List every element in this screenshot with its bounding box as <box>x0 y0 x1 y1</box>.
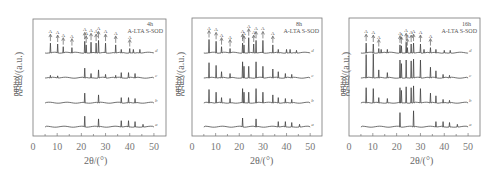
svg-text:A: A <box>61 33 65 38</box>
svg-text:A: A <box>364 29 368 34</box>
legend-text: A-LTA S-SOD <box>442 28 477 35</box>
x-axis-label: 2θ/(°) <box>84 155 107 166</box>
xrd-curve-c <box>204 62 310 78</box>
curve-label-a: a <box>155 122 158 127</box>
svg-text:A: A <box>254 26 258 31</box>
curve-label-d: d <box>311 48 314 53</box>
svg-text:A: A <box>419 30 423 35</box>
xrd-panel-8h: AAAAAAAAAAA 强度/(a.u.) 2θ/(°) 8h A-LTA S-… <box>170 0 335 174</box>
svg-text:A: A <box>377 35 381 40</box>
svg-text:A: A <box>89 28 93 33</box>
curve-label-b: b <box>155 98 158 103</box>
svg-text:A: A <box>114 31 118 36</box>
svg-text:A: A <box>104 29 108 34</box>
svg-text:A: A <box>97 26 101 31</box>
x-tick-label: 30 <box>258 141 268 152</box>
x-tick-label: 30 <box>415 141 425 152</box>
x-tick-label: 50 <box>305 141 315 152</box>
xrd-curve-b <box>361 86 468 103</box>
x-tick-label: 40 <box>125 141 135 152</box>
x-axis-label: 2θ/(°) <box>410 155 433 166</box>
x-tick-label: 0 <box>31 141 36 152</box>
curve-label-c: c <box>155 73 157 78</box>
svg-text:A: A <box>84 31 88 36</box>
svg-text:A: A <box>207 26 211 31</box>
panel-title: 4h <box>147 21 153 28</box>
curve-label-b: b <box>469 98 472 103</box>
curve-label-a: a <box>469 122 472 127</box>
x-tick-label: 20 <box>392 141 402 152</box>
x-tick-label: 50 <box>149 141 159 152</box>
xrd-curve-c <box>361 54 468 78</box>
svg-text:A: A <box>400 32 404 37</box>
xrd-curve-d <box>204 38 310 53</box>
x-tick-label: 10 <box>52 141 62 152</box>
svg-text:A: A <box>228 35 232 40</box>
x-tick-label: 10 <box>368 141 378 152</box>
x-tick-label: 10 <box>211 141 221 152</box>
xrd-panel-16h: AAAAAASAAAA 强度/(a.u.) 2θ/(°) 16h A-LTA S… <box>335 0 499 174</box>
xrd-curve-a <box>361 111 468 127</box>
svg-text:A: A <box>242 31 246 36</box>
x-tick-label: 30 <box>101 141 111 152</box>
x-axis-label: 2θ/(°) <box>250 155 273 166</box>
svg-text:A: A <box>247 24 251 29</box>
xrd-curve-d <box>45 40 154 53</box>
svg-text:A: A <box>412 29 416 34</box>
curve-label-a: a <box>311 122 314 127</box>
svg-text:A: A <box>404 28 408 33</box>
y-axis-label: 强度/(a.u.) <box>173 52 188 96</box>
xrd-curve-b <box>45 93 154 103</box>
y-axis-label: 强度/(a.u.) <box>338 52 353 96</box>
curve-label-c: c <box>311 73 313 78</box>
x-tick-label: 40 <box>439 141 449 152</box>
xrd-curve-a <box>204 118 310 127</box>
svg-text:A: A <box>261 26 265 31</box>
xrd-curve-b <box>204 89 310 104</box>
xrd-curve-c <box>45 68 154 78</box>
svg-text:A: A <box>429 34 433 39</box>
svg-text:A: A <box>220 33 224 38</box>
panel-title: 8h <box>296 21 302 28</box>
curve-label-c: c <box>469 73 471 78</box>
x-tick-label: 20 <box>76 141 86 152</box>
x-tick-label: 50 <box>463 141 473 152</box>
svg-text:A: A <box>70 34 74 39</box>
legend-text: A-LTA S-SOD <box>284 28 319 35</box>
svg-text:A: A <box>49 29 53 34</box>
xrd-curve-d <box>361 42 468 53</box>
panel-title: 16h <box>462 21 471 28</box>
y-axis-label: 强度/(a.u.) <box>11 52 26 96</box>
svg-text:A: A <box>214 27 218 32</box>
xrd-curve-a <box>45 116 154 127</box>
x-tick-label: 0 <box>347 141 352 152</box>
svg-text:A: A <box>271 31 275 36</box>
curve-label-b: b <box>311 98 314 103</box>
legend-text: A-LTA S-SOD <box>128 28 163 35</box>
x-tick-label: 20 <box>234 141 244 152</box>
x-tick-label: 40 <box>282 141 292 152</box>
xrd-panel-4h: AAAAAAAAAAAA 强度/(a.u.) 2θ/(°) 4h A-LTA S… <box>0 0 170 174</box>
svg-text:A: A <box>128 35 132 40</box>
svg-text:A: A <box>371 30 375 35</box>
curve-label-d: d <box>155 48 158 53</box>
curve-label-d: d <box>469 48 472 53</box>
svg-text:A: A <box>56 30 60 35</box>
x-tick-label: 0 <box>190 141 195 152</box>
